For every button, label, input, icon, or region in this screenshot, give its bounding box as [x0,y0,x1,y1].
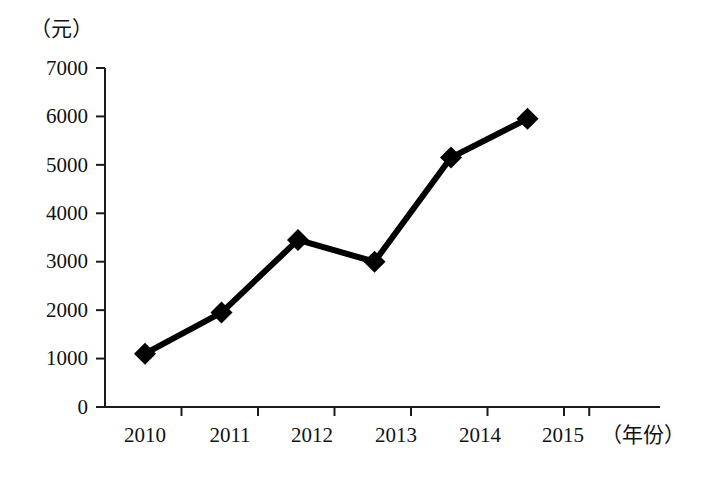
y-axis-ticks [96,68,105,407]
chart-canvas [0,0,701,481]
data-point-marker [134,343,156,365]
line-chart: （元） 7000 6000 5000 4000 3000 2000 1000 0… [0,0,701,481]
data-point-marker [517,108,539,130]
series-group [134,108,539,365]
axis-group [96,68,660,416]
series-line [145,119,528,354]
x-axis-ticks [182,407,590,416]
